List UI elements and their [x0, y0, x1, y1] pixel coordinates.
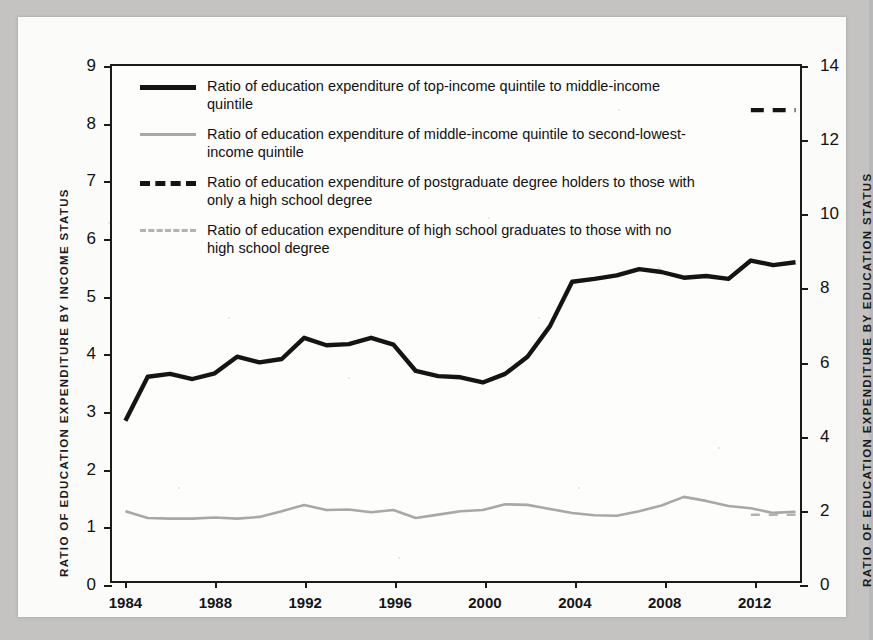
y-axis-right-tick-label: 4	[820, 426, 829, 446]
y-axis-right-tick-label: 12	[820, 130, 839, 150]
y-axis-right-tick	[800, 437, 808, 439]
y-axis-left-tick	[104, 239, 112, 241]
y-axis-left-tick-label: 9	[64, 56, 96, 76]
y-axis-right-tick	[800, 288, 808, 290]
x-axis-tick	[125, 581, 127, 588]
y-axis-left-tick-label: 7	[64, 171, 96, 191]
paper-speck	[538, 317, 540, 319]
legend-item: Ratio of education expenditure of postgr…	[140, 174, 700, 209]
plot-area: 0123456789 02468101214 19841988199219962…	[110, 64, 802, 583]
y-axis-left-tick-label: 1	[64, 517, 96, 537]
legend-item-label: Ratio of education expenditure of postgr…	[207, 174, 700, 209]
y-axis-right-tick	[800, 585, 808, 587]
y-axis-left-tick-label: 2	[64, 459, 96, 479]
y-axis-right-tick	[800, 214, 808, 216]
y-axis-left-tick-label: 0	[64, 575, 96, 595]
y-axis-right-tick-label: 8	[820, 278, 829, 298]
paper-speck	[488, 217, 490, 219]
x-axis-tick-label: 2012	[738, 594, 771, 611]
x-axis-tick-label: 2008	[648, 594, 681, 611]
legend-line-swatch	[140, 78, 196, 95]
y-axis-left-tick	[104, 124, 112, 126]
legend-line-glyph	[140, 181, 196, 186]
legend-item: Ratio of education expenditure of high s…	[140, 222, 700, 257]
y-axis-right-tick-label: 10	[820, 204, 839, 224]
x-axis-tick-label: 1984	[109, 594, 142, 611]
legend-line-swatch	[140, 222, 196, 239]
paper-speck	[658, 267, 660, 269]
y-axis-right-tick	[800, 511, 808, 513]
legend-item-label: Ratio of education expenditure of high s…	[207, 222, 700, 257]
y-axis-right-tick-label: 2	[820, 500, 829, 520]
chart-legend: Ratio of education expenditure of top-in…	[140, 78, 700, 270]
y-axis-left-tick	[104, 470, 112, 472]
series-line-0	[125, 261, 795, 421]
y-axis-right-tick	[800, 66, 808, 68]
legend-item-label: Ratio of education expenditure of middle…	[207, 126, 700, 161]
y-axis-left-tick-label: 4	[64, 344, 96, 364]
y-axis-left-tick-label: 6	[64, 229, 96, 249]
x-axis-tick-label: 1996	[378, 594, 411, 611]
paper-speck	[108, 222, 110, 224]
legend-item: Ratio of education expenditure of top-in…	[140, 78, 700, 113]
y-axis-right-title: RATIO OF EDUCATION EXPENDITURE BY EDUCAT…	[861, 173, 873, 587]
paper-speck	[228, 317, 230, 319]
y-axis-left-tick	[104, 527, 112, 529]
legend-line-glyph	[140, 133, 196, 136]
y-axis-left-tick	[104, 354, 112, 356]
y-axis-left-tick	[104, 181, 112, 183]
paper-speck	[178, 487, 180, 489]
x-axis-tick	[485, 581, 487, 588]
x-axis-tick	[665, 581, 667, 588]
x-axis-tick	[395, 581, 397, 588]
legend-line-swatch	[140, 174, 196, 191]
x-axis-tick-label: 2004	[558, 594, 591, 611]
legend-line-glyph	[140, 85, 196, 90]
y-axis-right-tick	[800, 140, 808, 142]
y-axis-left-tick	[104, 297, 112, 299]
y-axis-left-tick-label: 3	[64, 402, 96, 422]
legend-item-label: Ratio of education expenditure of top-in…	[207, 78, 700, 113]
y-axis-right-tick-label: 14	[820, 56, 839, 76]
x-axis-tick-label: 1992	[289, 594, 322, 611]
y-axis-right-tick-label: 6	[820, 352, 829, 372]
y-axis-right-tick-label: 0	[820, 575, 829, 595]
figure-page: RATIO OF EDUCATION EXPENDITURE BY INCOME…	[18, 17, 846, 617]
paper-speck	[280, 135, 282, 137]
x-axis-tick	[215, 581, 217, 588]
paper-speck	[718, 447, 720, 449]
y-axis-right-tick	[800, 363, 808, 365]
paper-speck	[348, 377, 350, 379]
x-axis-tick	[755, 581, 757, 588]
legend-item: Ratio of education expenditure of middle…	[140, 126, 700, 161]
y-axis-left-tick	[104, 66, 112, 68]
series-line-1	[125, 497, 795, 519]
x-axis-tick	[305, 581, 307, 588]
paper-speck	[398, 557, 400, 559]
x-axis-tick	[575, 581, 577, 588]
paper-speck	[578, 487, 580, 489]
paper-speck	[618, 109, 620, 111]
y-axis-left-tick-label: 5	[64, 286, 96, 306]
legend-line-swatch	[140, 126, 196, 143]
y-axis-left-tick	[104, 585, 112, 587]
x-axis-tick-label: 1988	[199, 594, 232, 611]
y-axis-left-tick-label: 8	[64, 113, 96, 133]
x-axis-tick-label: 2000	[468, 594, 501, 611]
y-axis-left-tick	[104, 412, 112, 414]
legend-line-glyph	[140, 229, 196, 232]
